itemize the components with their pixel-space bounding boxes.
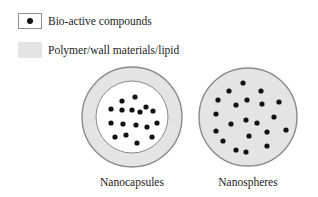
nanospheres-caption: Nanospheres [218, 176, 277, 188]
bioactive-dot [246, 133, 251, 138]
bioactive-dot [108, 120, 113, 125]
bioactive-dot [240, 80, 245, 85]
bioactive-dot [259, 101, 264, 106]
bioactive-dot [120, 121, 125, 126]
bioactive-dot [133, 122, 138, 127]
bioactive-dot [220, 138, 225, 143]
bioactive-dot [254, 120, 259, 125]
bioactive-dot [233, 102, 238, 107]
bioactive-dot [226, 88, 231, 93]
bioactive-dot [244, 97, 249, 102]
bioactive-dot [123, 132, 128, 137]
bioactive-dot [132, 94, 137, 99]
bioactive-dot [276, 99, 281, 104]
bioactive-dot [108, 106, 113, 111]
bioactive-dot [243, 149, 248, 154]
bioactive-dot [213, 128, 218, 133]
bioactive-dot [264, 143, 269, 148]
bioactive-dot [119, 98, 124, 103]
bioactive-dot [233, 147, 238, 152]
nanosphere-illustration [199, 68, 297, 166]
nanocapsules-caption: Nanocapsules [100, 176, 164, 188]
bioactive-dot [154, 120, 159, 125]
bioactive-dot [129, 107, 134, 112]
particle-diagram [0, 0, 318, 197]
bioactive-dot [112, 134, 117, 139]
bioactive-dot [264, 129, 269, 134]
bioactive-dot [228, 121, 233, 126]
bioactive-dot [243, 117, 248, 122]
core-circle [96, 81, 168, 153]
nanocapsule-illustration [82, 67, 182, 167]
bioactive-dot [150, 108, 155, 113]
bioactive-dot [134, 140, 139, 145]
bioactive-dot [215, 97, 220, 102]
bioactive-dot [144, 124, 149, 129]
bioactive-dot [137, 109, 142, 114]
bioactive-dot [143, 104, 148, 109]
bioactive-dot [213, 111, 218, 116]
bioactive-dot [258, 88, 263, 93]
bioactive-dot [283, 127, 288, 132]
bioactive-dot [119, 107, 124, 112]
bioactive-dot [271, 114, 276, 119]
bioactive-dot [149, 134, 154, 139]
